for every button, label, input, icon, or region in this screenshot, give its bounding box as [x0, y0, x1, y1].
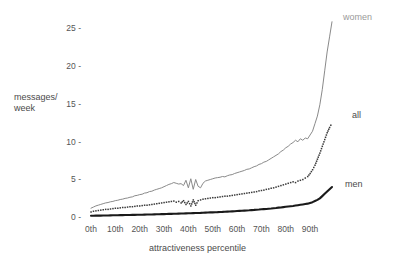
y-tick-5: 5 - [47, 174, 81, 184]
series-path-men [91, 187, 332, 216]
y-tick-10: 10 - [47, 137, 81, 147]
y-axis-title: messages/ week [14, 92, 76, 114]
y-axis-title-line1: messages/ [14, 92, 76, 103]
x-axis-title: attractiveness percentile [0, 243, 395, 253]
y-tick-0: 0 - [47, 212, 81, 222]
series-path-all [90, 124, 331, 212]
series-label-women: women [343, 12, 372, 22]
y-tick-20: 20 - [47, 61, 81, 71]
chart-container: 0 -5 -10 -15 -20 -25 - 0th10th20th30th40… [0, 0, 395, 274]
y-tick-25: 25 - [47, 23, 81, 33]
y-axis-title-line2: week [14, 103, 76, 114]
series-label-all: all [352, 110, 361, 120]
series-label-men: men [345, 179, 363, 189]
series-path-women [91, 22, 332, 208]
x-tick-90th: 90th [295, 224, 325, 234]
